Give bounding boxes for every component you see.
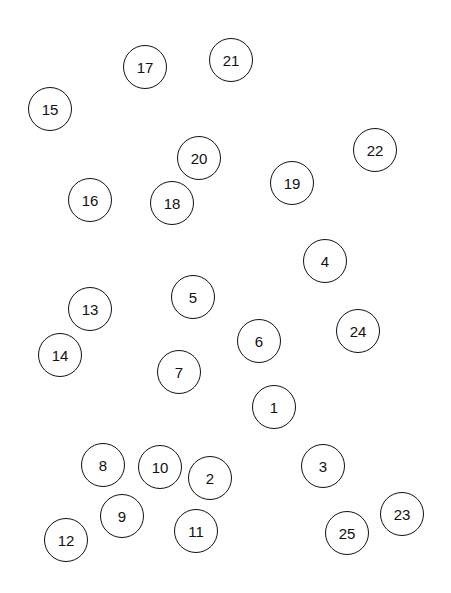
circle-node-label: 6 — [255, 334, 263, 349]
circle-node-14[interactable]: 14 — [38, 333, 82, 377]
circle-node-23[interactable]: 23 — [380, 492, 424, 536]
circle-node-label: 9 — [118, 509, 126, 524]
circle-node-6[interactable]: 6 — [237, 319, 281, 363]
circle-node-label: 5 — [189, 290, 197, 305]
circle-node-3[interactable]: 3 — [301, 444, 345, 488]
circle-node-label: 17 — [137, 60, 154, 75]
circle-node-21[interactable]: 21 — [209, 38, 253, 82]
circle-node-label: 23 — [394, 507, 411, 522]
circle-node-label: 20 — [191, 151, 208, 166]
circle-node-label: 2 — [206, 471, 214, 486]
circle-node-label: 18 — [164, 196, 181, 211]
circle-node-25[interactable]: 25 — [325, 511, 369, 555]
circle-node-5[interactable]: 5 — [171, 275, 215, 319]
circle-node-24[interactable]: 24 — [336, 309, 380, 353]
circle-node-label: 19 — [284, 176, 301, 191]
circle-node-label: 4 — [321, 254, 329, 269]
circle-node-label: 24 — [350, 324, 367, 339]
circle-node-11[interactable]: 11 — [174, 509, 218, 553]
circle-node-label: 16 — [82, 193, 99, 208]
circle-node-1[interactable]: 1 — [252, 385, 296, 429]
circle-node-7[interactable]: 7 — [157, 350, 201, 394]
circle-node-label: 3 — [319, 459, 327, 474]
circle-node-label: 25 — [339, 526, 356, 541]
circle-node-9[interactable]: 9 — [100, 494, 144, 538]
circle-node-label: 13 — [82, 302, 99, 317]
circle-node-16[interactable]: 16 — [68, 178, 112, 222]
circle-node-10[interactable]: 10 — [138, 445, 182, 489]
circle-node-label: 8 — [99, 458, 107, 473]
circle-node-label: 1 — [270, 400, 278, 415]
circle-node-label: 12 — [58, 533, 75, 548]
circle-node-8[interactable]: 8 — [81, 443, 125, 487]
circle-node-22[interactable]: 22 — [353, 128, 397, 172]
circle-node-18[interactable]: 18 — [150, 181, 194, 225]
circle-node-15[interactable]: 15 — [28, 87, 72, 131]
circle-node-20[interactable]: 20 — [177, 136, 221, 180]
circle-node-12[interactable]: 12 — [44, 518, 88, 562]
circle-node-4[interactable]: 4 — [303, 239, 347, 283]
circle-node-19[interactable]: 19 — [270, 161, 314, 205]
circle-node-label: 15 — [42, 102, 59, 117]
numbered-circles-canvas: 1234567891011121314151617181920212223242… — [0, 0, 451, 593]
circle-node-2[interactable]: 2 — [188, 456, 232, 500]
circle-node-label: 22 — [367, 143, 384, 158]
circle-node-label: 14 — [52, 348, 69, 363]
circle-node-17[interactable]: 17 — [123, 45, 167, 89]
circle-node-label: 21 — [223, 53, 240, 68]
circle-node-label: 7 — [175, 365, 183, 380]
circle-node-13[interactable]: 13 — [68, 287, 112, 331]
circle-node-label: 10 — [152, 460, 169, 475]
circle-node-label: 11 — [188, 524, 204, 539]
